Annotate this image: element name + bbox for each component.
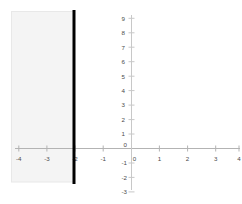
y-axis-tick-labels: 9 8 7 6 5 4 3 2 1 0 -1 -2 -3: [121, 15, 127, 196]
y-tick-label-9: 9: [122, 15, 126, 22]
y-tick-label--1: -1: [121, 159, 127, 166]
x-tick-label-0: 0: [133, 155, 137, 162]
y-tick-label-6: 6: [122, 58, 126, 65]
x-tick-label--1: -1: [100, 155, 106, 162]
y-tick-label-0: 0: [124, 141, 128, 148]
x-tick-label-2: 2: [186, 155, 190, 162]
x-tick-label-4: 4: [237, 155, 241, 162]
y-tick-label-7: 7: [122, 44, 126, 51]
x-tick-label-3: 3: [214, 155, 218, 162]
y-tick-label-4: 4: [122, 87, 126, 94]
y-tick-label-8: 8: [122, 29, 126, 36]
y-tick-label--3: -3: [121, 188, 127, 195]
y-tick-label-2: 2: [122, 116, 126, 123]
x-tick-label--3: -3: [44, 155, 50, 162]
x-tick-label-1: 1: [158, 155, 162, 162]
y-tick-label-5: 5: [122, 73, 126, 80]
y-tick-label--2: -2: [121, 174, 127, 181]
graph-canvas: -4 -3 -2 -1 0 1 2 3 4 9 8 7 6 5 4 3 2 1 …: [0, 0, 242, 204]
y-tick-label-3: 3: [122, 101, 126, 108]
y-tick-label-1: 1: [122, 130, 126, 137]
x-tick-label--4: -4: [16, 155, 22, 162]
coordinate-plane: -4 -3 -2 -1 0 1 2 3 4 9 8 7 6 5 4 3 2 1 …: [0, 0, 242, 204]
